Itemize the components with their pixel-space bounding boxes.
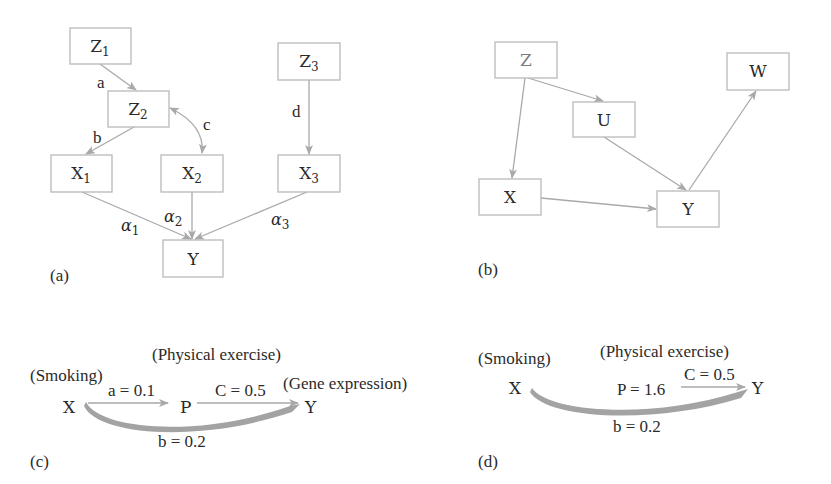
panel-b: Z U W X Y (b) <box>478 42 789 279</box>
node-x2: X2 <box>161 155 223 192</box>
node-u: U <box>573 102 635 137</box>
edge-label-b: b = 0.2 <box>158 432 206 451</box>
edge-z-x <box>512 78 525 178</box>
svg-text:Z: Z <box>520 50 532 70</box>
edge-label-b: b = 0.2 <box>613 417 661 436</box>
svg-text:W: W <box>749 61 767 81</box>
edge-z1-z2 <box>100 64 136 90</box>
panel-label-c: (c) <box>30 452 49 471</box>
node-x: X <box>509 378 522 398</box>
panel-label-d: (d) <box>478 452 498 471</box>
node-x: X <box>479 179 541 215</box>
node-y: Y <box>304 397 317 417</box>
svg-text:U: U <box>597 110 611 130</box>
annotation-smoking: (Smoking) <box>30 366 103 385</box>
edge-label-c: C = 0.5 <box>684 365 735 384</box>
node-y: Y <box>751 378 764 398</box>
edge-label-c: C = 0.5 <box>215 381 266 400</box>
edge-x3-y <box>195 192 307 239</box>
annotation-gene-expression: (Gene expression) <box>283 374 407 393</box>
edge-label-b: b <box>93 128 102 147</box>
edge-x-y <box>541 198 656 209</box>
edge-x-y-curved <box>84 402 300 432</box>
annotation-smoking: (Smoking) <box>478 349 551 368</box>
edge-label-d: d <box>292 102 301 121</box>
edge-z-u <box>528 78 603 101</box>
svg-text:Y: Y <box>186 249 199 269</box>
node-y: Y <box>163 240 223 277</box>
edge-y-w <box>689 91 756 190</box>
panel-c: (Physical exercise) (Smoking) (Gene expr… <box>30 345 407 471</box>
edge-label-a: a = 0.1 <box>108 381 155 400</box>
panel-label-b: (b) <box>478 260 498 279</box>
node-p: P <box>180 397 191 417</box>
node-w: W <box>727 53 789 90</box>
node-x: X <box>63 397 76 417</box>
panel-a: a b c d α1 α2 α3 Z1 Z2 Z3 X1 X2 X3 <box>50 28 340 285</box>
node-y: Y <box>657 191 719 227</box>
svg-text:X: X <box>504 187 517 207</box>
node-z1: Z1 <box>70 28 131 64</box>
svg-text:Y: Y <box>681 199 694 219</box>
node-x3: X3 <box>278 155 340 192</box>
annotation-physical-exercise: (Physical exercise) <box>152 345 281 364</box>
edge-u-y <box>604 137 686 190</box>
causal-diagrams-figure: a b c d α1 α2 α3 Z1 Z2 Z3 X1 X2 X3 <box>0 0 831 484</box>
edge-label-alpha3: α3 <box>271 210 289 232</box>
node-z3: Z3 <box>278 43 340 80</box>
edge-label-alpha1: α1 <box>121 216 139 238</box>
edge-label-a: a <box>97 73 105 92</box>
panel-label-a: (a) <box>50 266 69 285</box>
node-z2: Z2 <box>108 91 169 127</box>
edge-label-c: c <box>203 115 211 134</box>
edge-label-alpha2: α2 <box>164 207 182 229</box>
node-z: Z <box>495 42 557 78</box>
panel-d: (Smoking) (Physical exercise) C = 0.5 X … <box>478 342 764 471</box>
edge-z2-x2-bidirected <box>170 108 202 153</box>
annotation-physical-exercise: (Physical exercise) <box>600 342 729 361</box>
node-p-value: P = 1.6 <box>617 380 665 399</box>
node-x1: X1 <box>51 155 112 192</box>
